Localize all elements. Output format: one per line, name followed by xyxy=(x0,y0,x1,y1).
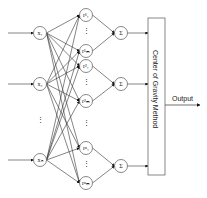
ellipsis: ⋮ xyxy=(83,160,90,168)
fuzzy-network-diagram: x₁x₂xₙr¹₁r¹ₘr²₁r²ₘrⁿ₁rⁿₘΣΣΣ⋮⋮⋮⋮⋮ Center … xyxy=(0,0,207,198)
rule-sum-edge xyxy=(93,15,115,33)
input-rule-edge xyxy=(47,160,80,183)
input-node-label: x₁ xyxy=(37,30,42,36)
rule-sum-edge xyxy=(93,33,115,51)
connections xyxy=(8,15,148,183)
rule-sum-edge xyxy=(93,166,115,183)
rule-node-label: rⁿₘ xyxy=(82,180,90,186)
input-rule-edge xyxy=(47,84,80,183)
rule-node-label: r¹ₘ xyxy=(82,48,90,54)
output-label: Output xyxy=(172,95,193,103)
input-rule-edge xyxy=(47,33,80,183)
rule-sum-edge xyxy=(93,84,115,101)
input-rule-edge xyxy=(47,66,80,84)
sum-node-label: Σ xyxy=(119,30,123,36)
input-rule-edge xyxy=(47,66,80,160)
ellipsis: ⋮ xyxy=(83,119,90,127)
sum-node-label: Σ xyxy=(119,163,123,169)
ellipsis: ⋮ xyxy=(83,78,90,86)
input-rule-edge xyxy=(47,15,80,33)
box-label: Center of Gravity Method xyxy=(151,50,159,128)
input-node-label: x₂ xyxy=(37,81,42,87)
ellipsis: ⋮ xyxy=(83,27,90,35)
sum-node-label: Σ xyxy=(119,81,123,87)
rule-node-label: r²₁ xyxy=(83,63,89,69)
rule-node-label: r²ₘ xyxy=(82,98,90,104)
rule-node-label: rⁿ₁ xyxy=(83,145,89,151)
rule-sum-edge xyxy=(93,148,115,166)
ellipsis: ⋮ xyxy=(37,116,44,124)
input-rule-edge xyxy=(47,148,80,160)
rule-sum-edge xyxy=(93,66,115,84)
rule-node-label: r¹₁ xyxy=(83,12,89,18)
